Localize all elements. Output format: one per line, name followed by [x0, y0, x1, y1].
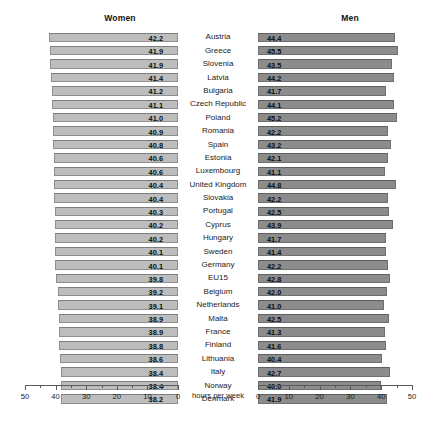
chart-rows: 42.2Austria44.441.9Greece45.541.9Sloveni… — [0, 31, 436, 406]
bar-men: 42.2 — [258, 260, 388, 269]
chart-row: 41.0Poland45.2 — [0, 111, 436, 124]
chart-row: 39.8EU1542.8 — [0, 272, 436, 285]
bar-women: 40.1 — [55, 247, 178, 256]
country-label: EU15 — [178, 272, 258, 283]
bar-women: 40.8 — [53, 140, 178, 149]
bar-wrap-men: 44.8 — [258, 180, 412, 189]
bar-value-men: 40.4 — [267, 355, 281, 364]
axis-tick-major — [147, 385, 148, 390]
bar-wrap-men: 41.6 — [258, 341, 412, 350]
bar-wrap-women: 40.1 — [25, 260, 178, 269]
country-label: Germany — [178, 259, 258, 270]
bar-women: 40.4 — [54, 180, 178, 189]
bar-wrap-men: 44.1 — [258, 100, 412, 109]
bar-men: 41.7 — [258, 233, 386, 242]
bar-men: 44.2 — [258, 73, 394, 82]
axis-tick-minor — [397, 385, 398, 388]
bar-wrap-men: 44.4 — [258, 33, 412, 42]
bar-value-men: 45.5 — [267, 47, 281, 56]
bar-men: 42.1 — [258, 153, 388, 162]
bar-wrap-men: 43.9 — [258, 220, 412, 229]
bar-men: 41.1 — [258, 167, 385, 176]
axis-caption: hours per week — [178, 391, 258, 400]
bar-men: 42.2 — [258, 193, 388, 202]
axis-tick-label: 20 — [113, 392, 121, 401]
bar-men: 42.7 — [258, 367, 390, 376]
axis-tick-major — [381, 385, 382, 390]
bar-value-women: 41.4 — [149, 74, 163, 83]
bar-value-women: 40.2 — [149, 235, 163, 244]
bar-women: 39.2 — [58, 287, 178, 296]
bar-value-men: 44.2 — [267, 74, 281, 83]
country-label: Spain — [178, 139, 258, 150]
bar-wrap-men: 41.0 — [258, 300, 412, 309]
bar-wrap-women: 41.1 — [25, 100, 178, 109]
bar-value-women: 40.2 — [149, 221, 163, 230]
chart-row: 38.9France41.3 — [0, 326, 436, 339]
bar-women: 40.4 — [54, 193, 178, 202]
bar-men: 44.8 — [258, 180, 396, 189]
bar-value-women: 39.2 — [149, 288, 163, 297]
bar-wrap-women: 40.1 — [25, 247, 178, 256]
bar-value-men: 41.4 — [267, 248, 281, 257]
bar-wrap-women: 39.8 — [25, 274, 178, 283]
bar-men: 45.2 — [258, 113, 397, 122]
country-label: Sweden — [178, 246, 258, 257]
bar-men: 43.2 — [258, 140, 391, 149]
bar-value-men: 42.2 — [267, 128, 281, 137]
axis-tick-major — [86, 385, 87, 390]
bar-wrap-men: 41.3 — [258, 327, 412, 336]
bar-wrap-men: 42.2 — [258, 260, 412, 269]
bar-value-women: 39.1 — [149, 302, 163, 311]
axis-tick-major — [289, 385, 290, 390]
bar-men: 42.5 — [258, 314, 389, 323]
bar-value-men: 44.4 — [267, 34, 281, 43]
bar-wrap-men: 42.2 — [258, 193, 412, 202]
bar-value-men: 42.2 — [267, 262, 281, 271]
country-label: Italy — [178, 366, 258, 377]
chart-row: 41.2Bulgaria41.7 — [0, 85, 436, 98]
bar-women: 42.2 — [49, 33, 178, 42]
bar-value-women: 40.1 — [149, 248, 163, 257]
country-label: Latvia — [178, 72, 258, 83]
chart-row: 40.8Spain43.2 — [0, 138, 436, 151]
country-label: Finland — [178, 339, 258, 350]
bar-women: 41.9 — [50, 46, 178, 55]
chart-row: 40.1Sweden41.4 — [0, 245, 436, 258]
bar-women: 41.2 — [52, 86, 178, 95]
bar-value-women: 40.4 — [149, 195, 163, 204]
bar-wrap-men: 42.8 — [258, 274, 412, 283]
bar-wrap-women: 40.8 — [25, 140, 178, 149]
axis-tick-minor — [132, 385, 133, 388]
chart-row: 40.6Estonia42.1 — [0, 152, 436, 165]
bar-wrap-men: 44.2 — [258, 73, 412, 82]
country-label: Slovakia — [178, 192, 258, 203]
axis-tick-label: 30 — [82, 392, 90, 401]
bar-wrap-men: 42.0 — [258, 287, 412, 296]
bar-women: 38.9 — [59, 327, 178, 336]
x-axis-women: 01020304050 — [25, 385, 178, 407]
bar-wrap-men: 41.7 — [258, 233, 412, 242]
bar-value-women: 40.9 — [149, 128, 163, 137]
bar-value-men: 41.7 — [267, 87, 281, 96]
bar-women: 40.2 — [55, 233, 178, 242]
country-label: Portugal — [178, 205, 258, 216]
axis-tick-minor — [40, 385, 41, 388]
bar-men: 45.5 — [258, 46, 398, 55]
axis-tick-major — [117, 385, 118, 390]
bar-women: 40.2 — [55, 220, 178, 229]
chart-row: 39.1Netherlands41.0 — [0, 299, 436, 312]
bar-men: 44.4 — [258, 33, 395, 42]
bar-women: 38.4 — [61, 367, 179, 376]
country-label: Netherlands — [178, 299, 258, 310]
bar-value-women: 40.1 — [149, 262, 163, 271]
axis-tick-major — [178, 385, 179, 390]
bar-men: 41.3 — [258, 327, 385, 336]
bar-women: 38.6 — [60, 354, 178, 363]
bar-wrap-women: 41.0 — [25, 113, 178, 122]
bar-wrap-women: 41.9 — [25, 46, 178, 55]
country-label: France — [178, 326, 258, 337]
country-label: Poland — [178, 112, 258, 123]
axis-tick-minor — [335, 385, 336, 388]
axis-tick-label: 50 — [21, 392, 29, 401]
